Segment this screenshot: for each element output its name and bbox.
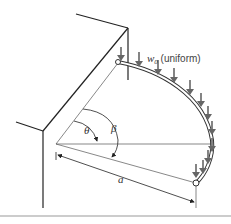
- radius-label: a: [118, 173, 124, 185]
- wall-support: [16, 14, 128, 208]
- load-label: w0 (uniform): [147, 52, 201, 66]
- curved-bar: [116, 60, 213, 187]
- curved-cantilever-diagram: w0 (uniform) θ β a: [0, 0, 231, 224]
- beta-label: β: [110, 122, 117, 134]
- theta-label: θ: [84, 124, 90, 136]
- diagram-canvas: w0 (uniform) θ β a: [0, 0, 231, 224]
